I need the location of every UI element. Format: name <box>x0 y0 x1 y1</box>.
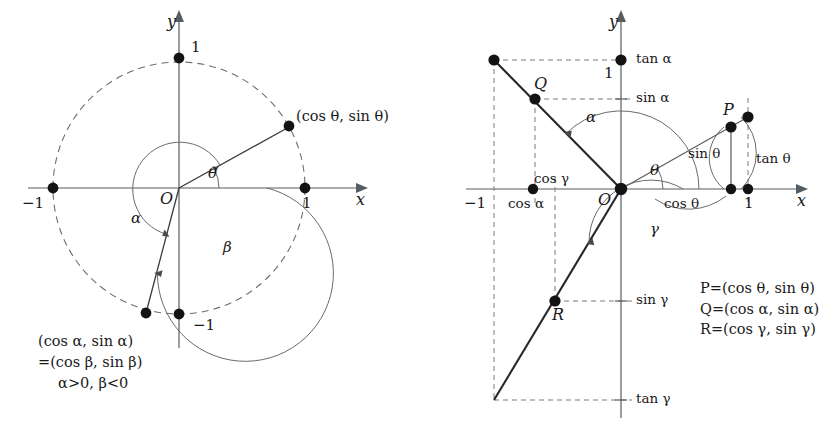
legend-row-Q: Q=(cos α, sin α) <box>700 299 819 320</box>
right-tan-theta-brace <box>741 117 756 189</box>
left-caption-line-1: (cos α, sin α) <box>38 331 142 352</box>
right-label-sin-theta: sin θ <box>688 147 720 161</box>
right-angle-alpha-label: α <box>586 110 596 125</box>
right-point-origin <box>615 183 627 195</box>
right-label-cos-gamma: cos γ <box>534 172 569 186</box>
right-tick-pos-one-y: 1 <box>604 66 614 81</box>
right-point-Q <box>529 93 540 104</box>
right-label-cos-theta: cos θ <box>664 197 699 211</box>
right-tick-pos-one-x: 1 <box>744 196 754 211</box>
right-point-cos-theta-foot <box>726 184 736 194</box>
left-point-pos-one-x <box>300 183 311 194</box>
left-caption-line-3: α>0, β<0 <box>38 373 142 394</box>
right-gamma-ray <box>494 189 621 400</box>
left-caption: (cos α, sin α) =(cos β, sin β) α>0, β<0 <box>38 331 142 394</box>
right-panel-graphics <box>466 10 808 418</box>
right-angle-gamma-label: γ <box>650 222 659 237</box>
right-label-sin-gamma: sin γ <box>636 293 668 307</box>
left-tick-pos-one-y: 1 <box>191 40 201 55</box>
left-angle-alpha-label: α <box>131 211 141 226</box>
left-angle-theta-label: θ <box>208 166 217 181</box>
right-point-label-Q: Q <box>534 76 547 92</box>
left-x-axis-label: x <box>356 192 365 208</box>
right-angle-theta-label: θ <box>650 163 659 178</box>
left-beta-arc <box>157 188 333 361</box>
legend-row-R: R=(cos γ, sin γ) <box>700 319 819 340</box>
left-point-neg-one-y <box>174 309 185 320</box>
right-label-cos-alpha: cos α <box>508 197 544 211</box>
left-point-pos-one-y <box>174 53 185 64</box>
right-point-tan-theta <box>742 111 753 122</box>
left-point-neg-one-x <box>48 183 59 194</box>
right-y-axis-label: y <box>609 14 618 30</box>
trigonometry-figure: y x O −1 1 1 −1 θ α β (cos θ, sin θ) (co… <box>0 0 839 429</box>
left-theta-ray <box>179 127 289 188</box>
right-legend: P=(cos θ, sin θ) Q=(cos α, sin α) R=(cos… <box>700 278 819 340</box>
right-label-sin-alpha: sin α <box>636 91 669 105</box>
right-point-one-x <box>743 184 753 194</box>
right-tick-neg-one-x: −1 <box>464 196 486 211</box>
right-origin-label: O <box>598 192 611 208</box>
left-angle-beta-label: β <box>223 240 232 255</box>
right-point-label-P: P <box>723 102 734 118</box>
left-theta-point-label: (cos θ, sin θ) <box>296 109 389 124</box>
left-caption-line-2: =(cos β, sin β) <box>38 352 142 373</box>
left-origin-label: O <box>160 191 173 207</box>
right-point-P <box>725 121 736 132</box>
right-x-axis-label: x <box>797 193 806 209</box>
left-point-alpha-beta <box>141 308 152 319</box>
right-point-tan-alpha-axis <box>615 54 626 65</box>
right-point-tan-alpha-end <box>488 54 499 65</box>
right-label-tan-alpha: tan α <box>636 52 672 66</box>
left-tick-neg-one-y: −1 <box>193 318 215 333</box>
right-label-tan-theta: tan θ <box>756 152 791 166</box>
right-label-tan-gamma: tan γ <box>636 392 671 406</box>
right-point-label-R: R <box>552 307 564 323</box>
left-tick-pos-one-x: 1 <box>302 196 312 211</box>
left-panel-graphics <box>28 10 368 361</box>
legend-row-P: P=(cos θ, sin θ) <box>700 278 819 299</box>
left-point-theta <box>284 121 295 132</box>
left-tick-neg-one-x: −1 <box>22 196 44 211</box>
left-y-axis-label: y <box>167 14 176 30</box>
